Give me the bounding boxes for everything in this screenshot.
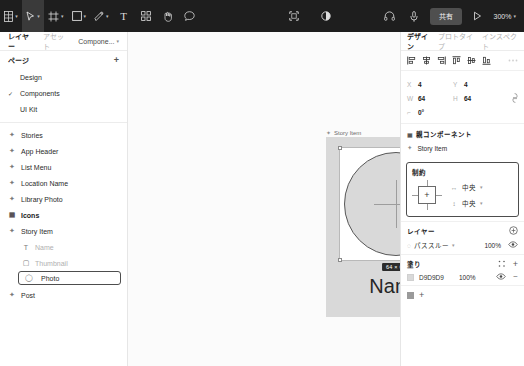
add-stroke-button[interactable]: + xyxy=(419,290,424,300)
add-fill-button[interactable]: + xyxy=(513,260,518,269)
file-dropdown[interactable]: Compone... ▾ xyxy=(78,38,119,45)
fill-color-hex[interactable]: D9D9D9 xyxy=(419,274,444,281)
blend-mode-select[interactable]: ◌ パススルー ▾ xyxy=(407,240,454,250)
width-field[interactable]: W 64 xyxy=(407,95,453,102)
minus-icon[interactable]: − xyxy=(513,273,518,281)
fill-opacity-value[interactable]: 100% xyxy=(459,274,476,281)
toolbar-tools-group: ▾ ▾ ▾ ▾ ▾ T xyxy=(0,0,201,32)
parent-component-item[interactable]: ✦ Story Item xyxy=(407,139,518,153)
y-field[interactable]: Y 4 xyxy=(453,81,499,88)
add-page-button[interactable]: + xyxy=(114,56,119,65)
layer-item-stories[interactable]: ✦ Stories xyxy=(0,127,127,143)
constraints-panel[interactable]: 制約 + ↔ 中央 ▾ xyxy=(406,162,519,217)
tab-inspect[interactable]: インスペクト xyxy=(482,31,518,51)
style-grid-icon[interactable] xyxy=(498,260,506,269)
position-row-xy: X 4 Y 4 xyxy=(407,77,518,91)
layers-list: ✦ Stories ✦ App Header ✦ List Menu ✦ Loc… xyxy=(0,125,127,366)
hand-tool-icon[interactable] xyxy=(157,0,179,32)
page-item-components[interactable]: ✓ Components xyxy=(0,85,127,101)
align-bottom-icon[interactable] xyxy=(482,56,491,66)
page-item-ui-kit[interactable]: UI Kit xyxy=(0,101,127,117)
layer-opacity-value[interactable]: 100% xyxy=(484,242,501,249)
constraint-horizontal-select[interactable]: ↔ 中央 ▾ xyxy=(450,182,483,192)
shape-tool-icon[interactable]: ▾ xyxy=(68,0,91,32)
resize-handle-bottom-left[interactable] xyxy=(338,258,342,262)
alignment-toolbar xyxy=(401,51,524,71)
app-body: レイヤー アセット Compone... ▾ ページ + Design ✓ Co xyxy=(0,32,524,366)
text-tool-icon[interactable]: T xyxy=(113,0,135,32)
eye-icon[interactable] xyxy=(508,241,518,249)
stroke-section-actions: + xyxy=(419,291,424,300)
layer-settings-icon[interactable] xyxy=(509,226,518,236)
constraint-vertical-select[interactable]: ↕ 中央 ▾ xyxy=(450,198,483,208)
pen-tool-icon[interactable]: ▾ xyxy=(90,0,113,32)
x-field[interactable]: X 4 xyxy=(407,81,453,88)
layer-label: Thumbnail xyxy=(35,260,68,267)
constraints-widget[interactable]: + xyxy=(412,180,442,210)
tab-layers[interactable]: レイヤー xyxy=(8,31,34,51)
component-diamond-icon: ✦ xyxy=(8,179,16,187)
layer-label: Post xyxy=(21,292,35,299)
story-item-frame[interactable]: 64 × 64 Name xyxy=(326,137,400,317)
component-tool-icon[interactable] xyxy=(135,0,157,32)
eye-icon[interactable] xyxy=(496,273,506,281)
align-horizontal-center-icon[interactable] xyxy=(422,56,431,66)
resize-to-fit-icon[interactable] xyxy=(283,0,305,32)
frame-tool-icon[interactable]: ▾ xyxy=(44,0,68,32)
right-panel: デザイン プロトタイプ インスペクト xyxy=(400,32,524,366)
resize-handle-top-left[interactable] xyxy=(338,146,342,150)
align-top-icon[interactable] xyxy=(452,56,461,66)
h-label: H xyxy=(453,95,460,102)
layer-item-story-item[interactable]: ✦ Story Item xyxy=(0,223,127,239)
layer-item-photo[interactable]: ◯ Photo xyxy=(18,271,121,285)
zoom-level-control[interactable]: 300% ▾ xyxy=(491,13,516,20)
chevron-down-icon: ▾ xyxy=(452,243,455,248)
layer-label: Name xyxy=(35,244,54,251)
card-name-text[interactable]: Name xyxy=(326,275,400,298)
height-field[interactable]: H 64 xyxy=(453,95,499,102)
align-right-icon[interactable] xyxy=(437,56,446,66)
layer-item-post[interactable]: ✦ Post xyxy=(0,287,127,303)
layer-item-list-menu[interactable]: ✦ List Menu xyxy=(0,159,127,175)
text-layer-icon: T xyxy=(22,244,30,251)
component-diamond-icon: ✦ xyxy=(8,163,16,171)
size-badge: 64 × 64 xyxy=(382,263,400,271)
rotation-field[interactable]: ⌐ 0° xyxy=(407,109,453,116)
photo-ellipse-shape[interactable] xyxy=(344,152,400,256)
page-item-design[interactable]: Design xyxy=(0,69,127,85)
layer-item-app-header[interactable]: ✦ App Header xyxy=(0,143,127,159)
lock-aspect-ratio-icon[interactable] xyxy=(512,93,518,104)
align-left-icon[interactable] xyxy=(407,56,416,66)
pages-section-header: ページ + xyxy=(0,51,127,69)
fill-color-swatch[interactable] xyxy=(407,274,414,281)
tab-assets[interactable]: アセット xyxy=(43,31,69,51)
align-vertical-center-icon[interactable] xyxy=(467,56,476,66)
photo-selection-box[interactable] xyxy=(340,148,400,260)
layer-item-location-name[interactable]: ✦ Location Name xyxy=(0,175,127,191)
more-options-icon[interactable] xyxy=(508,56,518,66)
layer-item-name[interactable]: T Name xyxy=(0,239,127,255)
left-panel: レイヤー アセット Compone... ▾ ページ + Design ✓ Co xyxy=(0,32,128,366)
canvas-area[interactable]: ✦ Story Item 64 × 64 Name xyxy=(128,32,400,366)
file-dropdown-label: Compone... xyxy=(78,38,114,45)
microphone-icon[interactable] xyxy=(403,0,425,32)
headphones-icon[interactable] xyxy=(379,0,401,32)
tab-design[interactable]: デザイン xyxy=(407,31,431,51)
move-tool-icon[interactable]: ▾ xyxy=(22,0,44,32)
chevron-down-icon: ▾ xyxy=(513,14,516,19)
play-icon[interactable] xyxy=(467,0,489,32)
rotation-value: 0° xyxy=(418,109,424,116)
constraints-body: + ↔ 中央 ▾ ↕ 中央 ▾ xyxy=(412,177,513,210)
canvas-frame-label[interactable]: ✦ Story Item xyxy=(326,129,361,136)
comment-tool-icon[interactable] xyxy=(179,0,201,32)
layer-item-thumbnail[interactable]: ▢ Thumbnail xyxy=(0,255,127,271)
frame-label-text: Story Item xyxy=(334,130,361,136)
tab-prototype[interactable]: プロトタイプ xyxy=(438,31,474,51)
layer-item-icons[interactable]: ▦ Icons xyxy=(0,207,127,223)
layer-item-library-photo[interactable]: ✦ Library Photo xyxy=(0,191,127,207)
contrast-icon[interactable] xyxy=(315,0,337,32)
component-diamond-icon: ✦ xyxy=(8,227,16,235)
constraint-center-icon: + xyxy=(424,191,429,200)
figma-logo-icon[interactable]: ▾ xyxy=(0,0,22,32)
share-button[interactable]: 共有 xyxy=(430,8,462,25)
